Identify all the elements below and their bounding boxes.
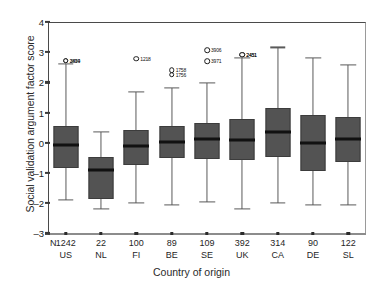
whisker-cap-lower (58, 200, 74, 201)
y-tick-mark (45, 81, 50, 83)
x-group-label: 122SL (325, 238, 371, 261)
y-tick-label: –3 (20, 228, 44, 239)
median-line (88, 168, 114, 171)
whisker-lower (206, 159, 207, 201)
x-tick-mark (276, 232, 279, 235)
median-line (194, 137, 220, 140)
y-tick-label: –2 (20, 198, 44, 209)
outlier-case-label: 2451 (246, 52, 256, 58)
y-tick-mark (45, 21, 50, 23)
whisker-upper (65, 64, 66, 127)
outlier-marker (63, 58, 69, 64)
x-tick-mark (64, 232, 67, 235)
x-tick-mark (205, 232, 208, 235)
y-tick-mark (45, 112, 50, 114)
group-n-value: 122 (325, 238, 371, 250)
outlier-case-label: 1756 (176, 72, 186, 78)
whisker-upper (136, 92, 137, 129)
whisker-upper (277, 47, 278, 107)
x-tick-mark (135, 232, 138, 235)
whisker-lower (65, 168, 66, 201)
x-tick-mark (311, 232, 314, 235)
median-line (229, 138, 255, 141)
x-tick-mark (347, 232, 350, 235)
median-line (123, 144, 149, 147)
box-se (195, 123, 220, 159)
y-tick-mark (45, 51, 50, 53)
whisker-lower (348, 162, 349, 204)
whisker-cap-upper (341, 64, 357, 65)
outlier-marker (134, 56, 140, 62)
whisker-cap-lower (199, 201, 215, 202)
whisker-cap-upper (270, 47, 286, 48)
n-row-label: N (50, 238, 57, 248)
box-nl (89, 157, 114, 199)
y-tick-mark (45, 202, 50, 204)
median-line (159, 141, 185, 144)
whisker-cap-lower (129, 203, 145, 204)
y-tick-label: 0 (20, 137, 44, 148)
y-tick-mark (45, 142, 50, 144)
outlier-case-label: 1218 (140, 56, 150, 62)
whisker-cap-upper (164, 87, 180, 88)
median-line (335, 138, 361, 141)
x-tick-mark (99, 232, 102, 235)
y-tick-label: 1 (20, 107, 44, 118)
outlier-marker (169, 72, 175, 78)
whisker-cap-lower (305, 204, 321, 205)
median-line (265, 130, 291, 133)
whisker-upper (312, 58, 313, 115)
outlier-case-label: 3906 (211, 47, 221, 53)
x-axis-title: Country of origin (0, 266, 383, 278)
whisker-upper (100, 132, 101, 157)
y-tick-mark (45, 232, 50, 234)
outlier-marker (204, 47, 210, 53)
median-line (300, 141, 326, 144)
box-us (53, 126, 78, 167)
whisker-upper (171, 88, 172, 127)
whisker-cap-lower (270, 203, 286, 204)
whisker-lower (171, 158, 172, 205)
outlier-marker (204, 58, 210, 64)
whisker-upper (206, 83, 207, 123)
outlier-case-label: 3971 (211, 58, 221, 64)
outlier-marker (240, 52, 246, 58)
y-tick-label: 3 (20, 47, 44, 58)
whisker-lower (277, 157, 278, 203)
whisker-lower (312, 171, 313, 205)
y-tick-label: 4 (20, 17, 44, 28)
median-line (53, 143, 79, 146)
y-tick-label: –1 (20, 168, 44, 179)
whisker-lower (242, 160, 243, 208)
whisker-cap-lower (341, 204, 357, 205)
whisker-cap-lower (164, 204, 180, 205)
y-tick-mark (45, 172, 50, 174)
y-tick-label: 2 (20, 77, 44, 88)
outlier-case-label: 2839 (70, 58, 80, 64)
whisker-cap-upper (199, 82, 215, 83)
x-tick-mark (241, 232, 244, 235)
whisker-lower (136, 165, 137, 204)
group-country-code: SL (325, 250, 371, 262)
whisker-cap-upper (129, 91, 145, 92)
boxplot-figure: Social validation argument factor score … (0, 0, 383, 291)
whisker-cap-lower (93, 209, 109, 210)
whisker-cap-upper (305, 57, 321, 58)
whisker-upper (242, 58, 243, 119)
whisker-cap-upper (93, 132, 109, 133)
whisker-upper (348, 65, 349, 117)
x-tick-mark (170, 232, 173, 235)
whisker-cap-lower (235, 208, 251, 209)
